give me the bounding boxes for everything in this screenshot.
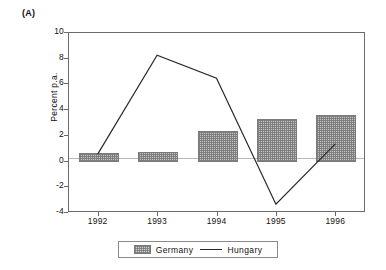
legend-label-hungary: Hungary	[227, 245, 262, 255]
hungary-polyline	[98, 55, 336, 204]
legend-label-germany: Germany	[156, 245, 194, 255]
line-series-hungary	[69, 33, 364, 211]
x-tick-label: 1994	[187, 216, 247, 226]
x-tick-mark	[98, 212, 99, 216]
legend-item-germany: Germany	[134, 245, 194, 255]
x-tick-mark	[276, 212, 277, 216]
y-tick-label: 8	[40, 52, 64, 62]
y-tick-label: 0	[40, 155, 64, 165]
x-tick-label: 1992	[68, 216, 128, 226]
y-tick-mark	[64, 212, 68, 213]
x-tick-mark	[335, 212, 336, 216]
y-tick-label: -4	[40, 206, 64, 216]
plot-inner	[69, 33, 364, 211]
plot-area	[68, 32, 365, 212]
y-tick-label: -2	[40, 180, 64, 190]
x-tick-mark	[157, 212, 158, 216]
y-tick-label: 10	[40, 26, 64, 36]
y-tick-label: 6	[40, 77, 64, 87]
panel-label: (A)	[22, 8, 35, 18]
x-tick-label: 1996	[305, 216, 365, 226]
y-tick-label: 2	[40, 129, 64, 139]
chart-legend: Germany Hungary	[118, 241, 278, 258]
x-tick-label: 1993	[127, 216, 187, 226]
x-tick-label: 1995	[246, 216, 306, 226]
x-tick-mark	[217, 212, 218, 216]
hungary-line-icon	[200, 249, 222, 250]
germany-swatch-icon	[134, 245, 151, 254]
y-tick-label: 4	[40, 103, 64, 113]
legend-item-hungary: Hungary	[200, 245, 262, 255]
